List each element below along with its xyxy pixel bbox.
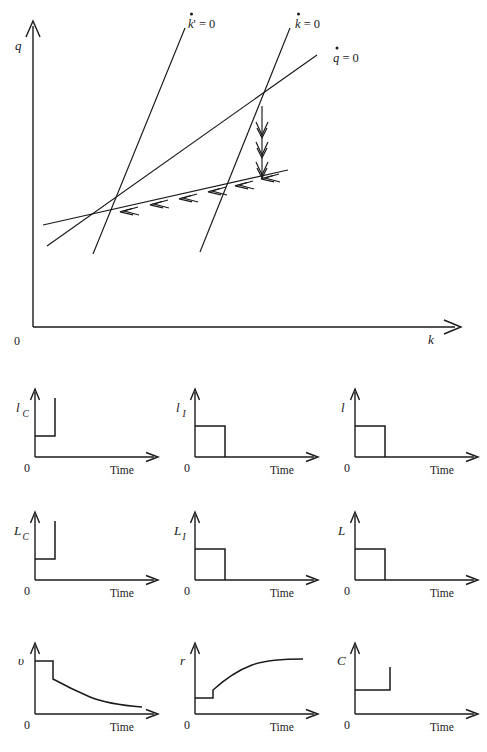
panel-Lc-ylabel-main: L: [13, 523, 21, 538]
panel-Lc-curve: [35, 521, 55, 559]
curve-label-kdot-zero: k = 0: [295, 13, 320, 32]
panel-C-xlabel: Time: [430, 721, 454, 733]
panel-Lc-ylabel-sub: C: [23, 532, 30, 542]
panel-L-curve: [355, 549, 385, 580]
panel-C: C 0 Time: [322, 628, 485, 738]
panel-li-ylabel-sub: I: [182, 409, 187, 419]
panel-Li: L I 0 Time: [162, 503, 325, 613]
panel-v: υ 0 Time: [2, 628, 165, 738]
panel-C-origin: 0: [344, 718, 350, 732]
panel-v-ylabel-main: υ: [18, 653, 24, 668]
panel-l: l 0 Time: [322, 380, 485, 490]
figure-root: q k 0: [0, 0, 487, 752]
overdot-k: [297, 13, 300, 16]
panel-lc-xlabel: Time: [110, 464, 134, 476]
panel-Lc: L C 0 Time: [2, 503, 165, 613]
curve-kdot-zero: [200, 28, 290, 252]
overdot-q: [336, 47, 339, 50]
panel-Li-ylabel-sub: I: [182, 532, 187, 542]
panel-v-origin: 0: [24, 718, 30, 732]
panel-l-origin: 0: [344, 461, 350, 475]
phase-diagram-panel: q k 0: [0, 0, 487, 370]
panel-r-origin: 0: [184, 718, 190, 732]
panel-l-svg: l 0 Time: [322, 380, 485, 490]
curve-qdot-zero: [47, 55, 317, 246]
panel-Li-ylabel-main: L: [173, 523, 181, 538]
panel-lc-ylabel-main: l: [16, 400, 20, 415]
panel-Li-svg: L I 0 Time: [162, 503, 325, 613]
phase-diagram-svg: q k 0: [0, 0, 487, 370]
phase-x-axis-label: k: [428, 332, 434, 347]
panel-v-xlabel: Time: [110, 721, 134, 733]
panel-Li-origin: 0: [184, 584, 190, 598]
panel-r-svg: r 0 Time: [162, 628, 325, 746]
panel-li-svg: l I 0 Time: [162, 380, 325, 490]
label-q-rest: = 0: [339, 51, 359, 65]
panel-C-curve: [355, 667, 390, 690]
panel-Lc-origin: 0: [24, 584, 30, 598]
panel-Li-xlabel: Time: [270, 587, 294, 599]
panel-lc-svg: l C 0 Time: [2, 380, 165, 490]
curve-label-kdot-prime-zero: k' = 0: [188, 13, 215, 32]
overdot-kprime: [190, 13, 193, 16]
panel-C-svg: C 0 Time: [322, 628, 485, 746]
saddle-path-arrow-group: [120, 174, 280, 215]
panel-li-xlabel: Time: [270, 464, 294, 476]
saddle-path-arrow: [120, 207, 139, 215]
panel-l-ylabel-main: l: [341, 400, 345, 415]
saddle-path-arrow: [179, 194, 198, 202]
curve-saddle-path: [43, 170, 288, 225]
panel-Lc-svg: L C 0 Time: [2, 503, 165, 613]
panel-v-curve: [35, 661, 142, 707]
svg-text:k = 0: k = 0: [295, 17, 320, 31]
panel-lc: l C 0 Time: [2, 380, 165, 490]
phase-y-axis: [26, 21, 40, 327]
panel-L-xlabel: Time: [430, 587, 454, 599]
panel-Lc-xlabel: Time: [110, 587, 134, 599]
panel-r-axes: [191, 643, 319, 719]
panel-lc-origin: 0: [24, 461, 30, 475]
svg-text:q = 0: q = 0: [333, 51, 359, 65]
panel-lc-curve: [35, 398, 55, 436]
label-kprime-rest: ' = 0: [194, 17, 216, 31]
panel-r-xlabel: Time: [270, 721, 294, 733]
panel-l-curve: [355, 426, 385, 457]
phase-origin-label: 0: [14, 334, 20, 348]
panel-lc-ylabel-sub: C: [23, 409, 30, 419]
panel-C-ylabel-main: C: [337, 653, 346, 668]
saddle-path-arrow: [235, 181, 254, 189]
panel-r: r 0 Time: [162, 628, 325, 738]
panel-Li-curve: [195, 549, 225, 580]
panel-v-svg: υ 0 Time: [2, 628, 165, 746]
panel-Lc-axes: [31, 512, 159, 585]
phase-y-axis-label: q: [15, 38, 22, 53]
panel-L-origin: 0: [344, 584, 350, 598]
saddle-path-arrow: [150, 200, 169, 208]
vertical-arrow-group: [256, 106, 268, 179]
panel-li-ylabel-main: l: [176, 400, 180, 415]
curve-label-qdot-zero: q = 0: [333, 47, 359, 66]
panel-lc-axes: [31, 389, 159, 462]
panel-L-ylabel-main: L: [337, 523, 345, 538]
panel-li-curve: [195, 426, 225, 457]
panel-L: L 0 Time: [322, 503, 485, 613]
label-k-rest: = 0: [301, 17, 321, 31]
phase-x-axis: [33, 320, 461, 334]
panel-L-svg: L 0 Time: [322, 503, 485, 613]
panel-r-curve: [195, 659, 303, 698]
panel-l-xlabel: Time: [430, 464, 454, 476]
panel-li: l I 0 Time: [162, 380, 325, 490]
panel-li-origin: 0: [184, 461, 190, 475]
svg-text:k' = 0: k' = 0: [188, 17, 215, 31]
curve-kdot-prime-zero: [93, 28, 185, 254]
panel-r-ylabel-main: r: [180, 653, 186, 668]
panel-C-axes: [351, 643, 479, 719]
